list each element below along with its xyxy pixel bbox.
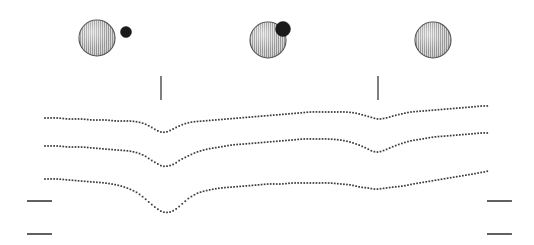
curve-dot (44, 178, 46, 180)
curve-dot (233, 144, 235, 146)
curve-dot (361, 146, 363, 148)
curve-dot (416, 139, 418, 141)
curve-dot (59, 117, 61, 119)
curve-dot (435, 179, 437, 181)
curve-dot (209, 148, 211, 150)
curve-dot (352, 142, 354, 144)
curve-dot (206, 120, 208, 122)
curve-dot (389, 147, 391, 149)
curve-dot (456, 134, 458, 136)
curve-dot (346, 111, 348, 113)
curve-dot (102, 182, 104, 184)
curve-dot (242, 143, 244, 145)
curve-dot (285, 140, 287, 142)
curve-dot (328, 182, 330, 184)
curve-dot (392, 186, 394, 188)
curve-dot (453, 135, 455, 137)
curve-dot (151, 204, 153, 206)
curve-dot (160, 131, 162, 133)
curve-dot (367, 187, 369, 189)
curve-dot (416, 111, 418, 113)
curve-dot (297, 112, 299, 114)
curve-dot (258, 184, 260, 186)
curve-dot (401, 113, 403, 115)
curve-dot (477, 172, 479, 174)
curve-dot (343, 183, 345, 185)
curve-dot (221, 119, 223, 121)
curve-dot (404, 112, 406, 114)
curve-dot (477, 105, 479, 107)
curve-dot (465, 133, 467, 135)
curve-dot (349, 112, 351, 114)
curve-dot (255, 184, 257, 186)
curve-dot (50, 145, 52, 147)
curve-dot (313, 182, 315, 184)
curve-dot (148, 125, 150, 127)
curve-dot (386, 117, 388, 119)
curve-dot (340, 111, 342, 113)
curve-dot (87, 119, 89, 121)
curve-dot (56, 117, 58, 119)
curve-dot (108, 183, 110, 185)
curve-dot (459, 107, 461, 109)
curve-dot (337, 183, 339, 185)
curve-dot (392, 146, 394, 148)
curve-dot (294, 112, 296, 114)
curve-dot (322, 182, 324, 184)
curve-dot (127, 187, 129, 189)
curve-dot (456, 176, 458, 178)
curve-dot (465, 174, 467, 176)
curve-dot (282, 113, 284, 115)
curve-dot (212, 119, 214, 121)
curve-dot (154, 129, 156, 131)
curve-dot (160, 165, 162, 167)
curve-dot (462, 175, 464, 177)
curve-dot (188, 198, 190, 200)
curve-dot (258, 116, 260, 118)
curve-dot (50, 117, 52, 119)
curve-dot (166, 131, 168, 133)
curve-dot (349, 141, 351, 143)
curve-dot (114, 120, 116, 122)
curve-dot (438, 109, 440, 111)
curve-dot (273, 114, 275, 116)
curve-dot (285, 183, 287, 185)
curve-dot (188, 155, 190, 157)
curve-dot (325, 138, 327, 140)
curve-dot (139, 194, 141, 196)
curve-dot (334, 139, 336, 141)
curve-dot (139, 153, 141, 155)
curve-dot (93, 181, 95, 183)
curve-dot (313, 111, 315, 113)
curve-dot (139, 122, 141, 124)
curve-dot (145, 123, 147, 125)
curve-dot (364, 115, 366, 117)
curve-dot (87, 181, 89, 183)
curve-dot (111, 120, 113, 122)
curve-dot (169, 211, 171, 213)
curve-dot (435, 136, 437, 138)
curve-dot (316, 182, 318, 184)
curve-dot (117, 149, 119, 151)
curve-dot (392, 115, 394, 117)
curve-dot (87, 147, 89, 149)
curve-dot (145, 156, 147, 158)
curve-dot (279, 183, 281, 185)
curve-dot (102, 119, 104, 121)
curve-dot (62, 179, 64, 181)
curve-dot (306, 182, 308, 184)
curve-dot (154, 206, 156, 208)
curve-dot (276, 183, 278, 185)
curve-dot (419, 110, 421, 112)
curve-dot (441, 135, 443, 137)
curve-dot (130, 120, 132, 122)
curve-dot (239, 186, 241, 188)
curve-dot (84, 180, 86, 182)
curve-dot (410, 184, 412, 186)
curve-dot (242, 117, 244, 119)
curve-dot (154, 161, 156, 163)
curve-dot (123, 120, 125, 122)
curve-dot (233, 118, 235, 120)
curve-dot (374, 117, 376, 119)
curve-dot (93, 147, 95, 149)
